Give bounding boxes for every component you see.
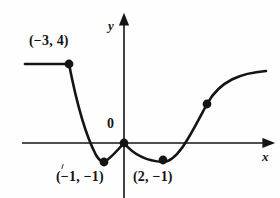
graph-figure: y x 0 (−3, 4) (−1, −1) (2, −1)	[0, 0, 280, 198]
curve-segment-descending	[69, 64, 104, 162]
origin-label: 0	[107, 117, 114, 131]
point-label-minus3-4: (−3, 4)	[29, 34, 69, 48]
data-point-right-branch	[203, 100, 212, 109]
data-point-origin	[120, 139, 129, 148]
curve-segment-rising-right	[163, 71, 266, 162]
point-label-minus1-minus1: (−1, −1)	[56, 170, 104, 184]
curve-segment-dip	[124, 143, 163, 162]
point-label-2-minus1: (2, −1)	[133, 170, 173, 184]
data-point-minus3-4	[65, 60, 74, 69]
data-point-2-minus1	[159, 156, 168, 165]
y-axis-label: y	[108, 19, 114, 32]
data-point-minus1-minus1	[100, 158, 109, 167]
x-axis-label: x	[262, 150, 269, 163]
